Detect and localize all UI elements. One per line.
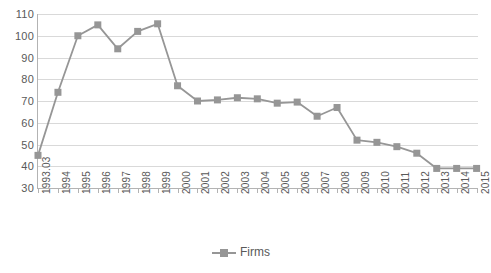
gridline xyxy=(37,166,478,167)
x-tick-label: 1995 xyxy=(82,171,92,194)
x-tick xyxy=(457,189,458,193)
x-tick-label: 2011 xyxy=(401,172,411,194)
legend-item-label: Firms xyxy=(240,246,270,258)
x-tick xyxy=(158,189,159,193)
x-tick xyxy=(317,189,318,193)
x-tick xyxy=(118,189,119,193)
y-tick-label: 50 xyxy=(4,140,34,151)
x-tick-label: 1999 xyxy=(162,171,172,194)
x-tick xyxy=(197,189,198,193)
plot-area xyxy=(37,14,478,188)
x-tick-label: 2004 xyxy=(261,171,271,194)
x-tick-label: 1998 xyxy=(142,171,152,194)
x-tick-label: 2014 xyxy=(461,171,471,194)
y-tick-label: 100 xyxy=(4,31,34,42)
x-tick xyxy=(138,189,139,193)
x-tick-label: 2009 xyxy=(361,171,371,194)
gridline xyxy=(37,36,478,37)
gridline xyxy=(37,14,478,15)
legend-item-firms[interactable]: Firms xyxy=(212,246,270,258)
x-tick-label: 2010 xyxy=(381,171,391,194)
x-tick-label: 2002 xyxy=(221,171,231,194)
x-tick xyxy=(257,189,258,193)
x-tick xyxy=(217,189,218,193)
x-tick xyxy=(397,189,398,193)
x-tick-label: 1997 xyxy=(122,171,132,194)
x-tick-label: 2003 xyxy=(241,171,251,194)
x-tick xyxy=(337,189,338,193)
y-tick-label: 70 xyxy=(4,96,34,107)
x-tick-label: 2013 xyxy=(441,171,451,194)
x-tick-label: 2015 xyxy=(481,171,491,194)
x-tick xyxy=(38,189,39,193)
x-tick-label: 1993.03 xyxy=(42,156,52,194)
x-tick-label: 2008 xyxy=(341,171,351,194)
y-tick-label: 90 xyxy=(4,53,34,64)
gridline xyxy=(37,101,478,102)
gridline xyxy=(37,58,478,59)
x-tick xyxy=(377,189,378,193)
x-tick-label: 1996 xyxy=(102,171,112,194)
x-tick-label: 2012 xyxy=(421,171,431,194)
y-tick-label: 40 xyxy=(4,161,34,172)
y-axis-line xyxy=(37,14,38,189)
x-tick xyxy=(417,189,418,193)
x-tick-label: 2006 xyxy=(301,171,311,194)
x-tick xyxy=(477,189,478,193)
x-tick-label: 2001 xyxy=(201,171,211,194)
x-tick xyxy=(237,189,238,193)
x-tick xyxy=(98,189,99,193)
gridline xyxy=(37,79,478,80)
y-tick-label: 60 xyxy=(4,118,34,129)
legend-marker-icon xyxy=(212,247,236,258)
gridline xyxy=(37,123,478,124)
y-axis-labels: 11010090807060504030 xyxy=(0,0,34,273)
x-tick-label: 2007 xyxy=(321,171,331,194)
x-tick-label: 2005 xyxy=(281,171,291,194)
x-tick xyxy=(58,189,59,193)
x-tick xyxy=(78,189,79,193)
x-tick xyxy=(297,189,298,193)
gridline xyxy=(37,145,478,146)
x-tick-label: 1994 xyxy=(62,171,72,194)
y-tick-label: 30 xyxy=(4,183,34,194)
y-tick-label: 80 xyxy=(4,74,34,85)
x-tick xyxy=(437,189,438,193)
chart-legend: Firms xyxy=(0,246,482,258)
x-tick xyxy=(178,189,179,193)
y-tick-label: 110 xyxy=(4,9,34,20)
x-tick-label: 2000 xyxy=(182,171,192,194)
x-tick xyxy=(357,189,358,193)
x-tick xyxy=(277,189,278,193)
